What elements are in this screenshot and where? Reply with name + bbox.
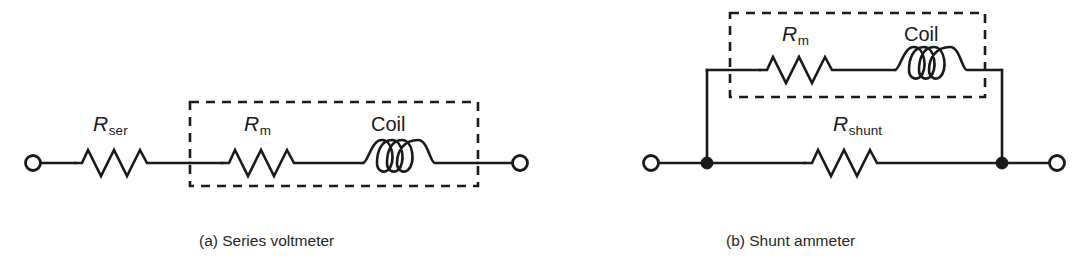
label-b-coil: Coil [904, 24, 938, 44]
label-a-resistor-ser-main: R [93, 112, 108, 135]
label-b-resistor-shunt: Rshunt [833, 113, 882, 134]
label-a-resistor-m: Rm [244, 113, 271, 134]
caption-diagram-a: (a) Series voltmeter [199, 233, 334, 249]
figure-canvas: Rser Rm Coil Rm Coil Rshunt (a) Series v… [0, 0, 1075, 274]
dashed-enclosure-a [190, 102, 478, 186]
resistor-a-m-symbol [222, 150, 363, 176]
label-b-resistor-m: Rm [782, 23, 809, 44]
label-b-resistor-m-main: R [782, 22, 797, 45]
junction-b-right [996, 157, 1008, 169]
resistor-a-ser-symbol [75, 150, 190, 176]
label-a-resistor-ser: Rser [93, 113, 127, 134]
label-b-resistor-m-sub: m [798, 33, 809, 48]
diagram-b-shunt-ammeter [644, 13, 1065, 176]
terminal-a-right [513, 156, 528, 171]
label-b-resistor-shunt-sub: shunt [849, 123, 883, 138]
label-a-coil: Coil [371, 114, 405, 134]
terminal-b-left [644, 156, 659, 171]
resistor-b-shunt-symbol [805, 150, 1002, 176]
terminal-a-left [26, 156, 41, 171]
dashed-enclosure-b [730, 13, 985, 97]
resistor-b-m-symbol [760, 57, 895, 83]
coil-a-symbol [363, 140, 478, 172]
label-a-resistor-m-main: R [244, 112, 259, 135]
label-a-resistor-m-sub: m [260, 123, 271, 138]
terminal-b-right [1050, 156, 1065, 171]
label-b-resistor-shunt-main: R [833, 112, 848, 135]
caption-diagram-b: (b) Shunt ammeter [726, 233, 855, 249]
label-a-resistor-ser-sub: ser [109, 123, 128, 138]
junction-b-left [701, 157, 713, 169]
